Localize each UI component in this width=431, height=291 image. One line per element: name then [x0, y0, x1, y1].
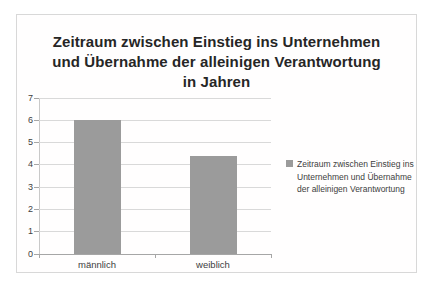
y-axis-label: 2 — [15, 204, 33, 215]
x-axis-tick — [39, 254, 40, 258]
chart-title: Zeitraum zwischen Einstieg ins Unternehm… — [17, 32, 416, 92]
y-axis-tick — [34, 142, 39, 143]
y-axis-label: 4 — [15, 159, 33, 170]
y-axis-tick — [34, 164, 39, 165]
y-axis-tick — [34, 187, 39, 188]
y-axis-tick — [34, 120, 39, 121]
legend-label-line-2: Unternehmen und Übernahme — [297, 171, 414, 184]
chart-legend: Zeitraum zwischen Einstieg ins Unternehm… — [286, 158, 418, 196]
y-axis-tick — [34, 98, 39, 99]
page: { "header_fragment": "in Jahren", "chart… — [0, 0, 431, 291]
y-axis-label: 0 — [15, 249, 33, 260]
legend-label-line-3: der alleinigen Verantwortung — [297, 183, 414, 196]
legend-marker-icon — [286, 160, 293, 167]
cropped-header-text: in Jahren — [30, 0, 90, 5]
y-axis-label: 5 — [15, 137, 33, 148]
bar-männlich — [74, 120, 121, 254]
plot-area: 01234567männlichweiblich — [39, 98, 271, 254]
x-axis-label: männlich — [39, 259, 155, 270]
chart-title-line-2: und Übernahme der alleinigen Verantwortu… — [17, 52, 416, 72]
x-axis-tick — [155, 254, 156, 258]
legend-label: Zeitraum zwischen Einstieg ins Unternehm… — [297, 158, 414, 196]
legend-label-line-1: Zeitraum zwischen Einstieg ins — [297, 158, 414, 171]
x-axis-label: weiblich — [155, 259, 271, 270]
y-axis-label: 3 — [15, 182, 33, 193]
chart-title-line-3: in Jahren — [17, 72, 416, 92]
chart-title-line-1: Zeitraum zwischen Einstieg ins Unternehm… — [17, 32, 416, 52]
y-axis-label: 1 — [15, 226, 33, 237]
y-axis-label: 7 — [15, 93, 33, 104]
bar-weiblich — [190, 156, 237, 254]
y-axis-label: 6 — [15, 115, 33, 126]
y-axis-tick — [34, 209, 39, 210]
gridline — [39, 98, 271, 99]
chart-panel: Zeitraum zwischen Einstieg ins Unternehm… — [16, 14, 417, 273]
y-axis-tick — [34, 231, 39, 232]
x-axis-tick — [271, 254, 272, 258]
